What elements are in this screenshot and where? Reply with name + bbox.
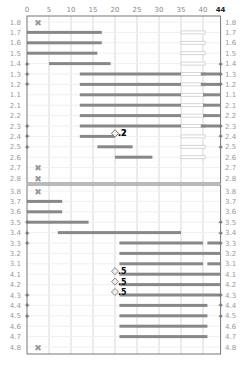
range-bar bbox=[80, 125, 181, 128]
range-bar bbox=[119, 252, 220, 255]
tooth-label-right: 4.5 bbox=[225, 312, 236, 320]
range-bar bbox=[119, 262, 203, 265]
range-bar bbox=[80, 83, 181, 86]
missing-tooth-icon: ✖ bbox=[34, 187, 42, 197]
x-tick-label: 10 bbox=[67, 6, 76, 14]
tooth-label-left: 3.8 bbox=[10, 188, 21, 196]
ghost-bar bbox=[181, 31, 205, 34]
point-annotation: .5 bbox=[118, 278, 127, 287]
range-bar bbox=[80, 114, 181, 117]
tooth-label-right: 3.5 bbox=[225, 219, 236, 227]
range-bar bbox=[115, 156, 152, 159]
tooth-label-right: 4.3 bbox=[225, 292, 236, 300]
range-bar bbox=[119, 314, 207, 317]
range-bar bbox=[80, 93, 181, 96]
point-annotation: .5 bbox=[118, 267, 127, 276]
tooth-label-left: 3.3 bbox=[10, 240, 21, 248]
tooth-label-left: 2.1 bbox=[10, 102, 21, 110]
tooth-label-right: 2.1 bbox=[225, 102, 236, 110]
range-bar bbox=[119, 283, 220, 286]
tooth-label-right: 1.3 bbox=[225, 71, 236, 79]
tooth-label-left: 3.7 bbox=[10, 198, 21, 206]
range-bar bbox=[49, 62, 111, 65]
tooth-label-left: 4.6 bbox=[10, 323, 22, 331]
tooth-label-left: 2.6 bbox=[10, 154, 22, 162]
tooth-label-right: 1.1 bbox=[225, 91, 236, 99]
tooth-label-right: 1.6 bbox=[225, 39, 237, 47]
x-tick-label: 30 bbox=[155, 6, 164, 14]
tooth-label-right: 1.4 bbox=[225, 60, 237, 68]
tooth-label-right: 1.2 bbox=[225, 81, 236, 89]
range-bar-right bbox=[203, 114, 221, 117]
tooth-label-left: 3.4 bbox=[10, 229, 22, 237]
tooth-label-right: 2.3 bbox=[225, 123, 236, 131]
ghost-bar bbox=[181, 104, 205, 107]
tooth-label-right: 1.8 bbox=[225, 19, 236, 27]
range-bar bbox=[119, 242, 203, 245]
range-bar bbox=[119, 294, 220, 297]
tooth-label-left: 3.2 bbox=[10, 250, 21, 258]
tooth-label-left: 2.5 bbox=[10, 143, 21, 151]
tooth-label-left: 2.2 bbox=[10, 112, 21, 120]
upper-jaw-panel: 1.81.8✖1.71.71.61.61.51.51.41.4✦✦1.31.3✦… bbox=[10, 16, 237, 184]
missing-tooth-icon: ✖ bbox=[34, 174, 42, 184]
range-bar bbox=[27, 31, 102, 34]
x-tick-label: 35 bbox=[177, 6, 186, 14]
range-bar bbox=[27, 41, 102, 44]
tooth-label-left: 1.4 bbox=[10, 60, 22, 68]
tooth-label-left: 4.1 bbox=[10, 271, 21, 279]
range-bar bbox=[119, 335, 207, 338]
range-bar bbox=[80, 73, 181, 76]
ghost-bar bbox=[181, 62, 205, 65]
tooth-label-right: 3.4 bbox=[225, 229, 237, 237]
range-bar bbox=[119, 304, 207, 307]
tooth-label-right: 3.6 bbox=[225, 208, 237, 216]
ghost-bar bbox=[181, 52, 205, 55]
x-tick-label: 15 bbox=[89, 6, 98, 14]
range-bar bbox=[27, 52, 97, 55]
x-tick-label: 0 bbox=[25, 6, 29, 14]
missing-tooth-icon: ✖ bbox=[34, 343, 42, 353]
tooth-label-right: 3.7 bbox=[225, 198, 236, 206]
tooth-label-left: 4.8 bbox=[10, 344, 21, 352]
missing-tooth-icon: ✖ bbox=[34, 18, 42, 28]
x-tick-label: 5 bbox=[47, 6, 51, 14]
tooth-label-right: 1.7 bbox=[225, 29, 236, 37]
tooth-label-right: 3.2 bbox=[225, 250, 236, 258]
tooth-label-left: 2.3 bbox=[10, 123, 21, 131]
point-annotation: .5 bbox=[118, 288, 127, 297]
tooth-label-right: 4.7 bbox=[225, 333, 236, 341]
tooth-label-left: 2.8 bbox=[10, 175, 21, 183]
x-tick-label: 20 bbox=[111, 6, 120, 14]
range-bar bbox=[119, 325, 207, 328]
ghost-bar bbox=[181, 135, 205, 138]
range-bar bbox=[80, 135, 115, 138]
ghost-bar bbox=[181, 41, 205, 44]
tooth-label-right: 1.5 bbox=[225, 50, 236, 58]
tooth-label-left: 1.3 bbox=[10, 71, 21, 79]
range-bar bbox=[27, 200, 62, 203]
tooth-label-left: 4.2 bbox=[10, 281, 21, 289]
tooth-label-right: 2.6 bbox=[225, 154, 237, 162]
tooth-label-left: 1.1 bbox=[10, 91, 21, 99]
tooth-label-right: 3.3 bbox=[225, 240, 236, 248]
tooth-label-right: 4.1 bbox=[225, 271, 236, 279]
tooth-label-left: 3.1 bbox=[10, 260, 21, 268]
ghost-bar bbox=[181, 93, 205, 96]
range-bar bbox=[27, 210, 62, 213]
tooth-label-left: 1.2 bbox=[10, 81, 21, 89]
range-bar bbox=[97, 145, 132, 148]
ghost-bar bbox=[181, 114, 205, 117]
tooth-label-left: 4.4 bbox=[10, 302, 22, 310]
tooth-label-left: 3.5 bbox=[10, 219, 21, 227]
tooth-label-right: 3.1 bbox=[225, 260, 236, 268]
range-bar-right bbox=[207, 262, 220, 265]
tooth-label-right: 2.2 bbox=[225, 112, 236, 120]
tooth-label-right: 2.8 bbox=[225, 175, 236, 183]
tooth-label-left: 1.7 bbox=[10, 29, 21, 37]
x-tick-label: 25 bbox=[133, 6, 142, 14]
x-axis-top: 051015202530354044 bbox=[25, 6, 226, 14]
tooth-label-right: 4.4 bbox=[225, 302, 237, 310]
ghost-bar bbox=[181, 145, 205, 148]
lower-jaw-panel: 3.83.8✖3.73.73.63.63.53.5✦✦3.43.4✦✦3.33.… bbox=[10, 185, 237, 354]
